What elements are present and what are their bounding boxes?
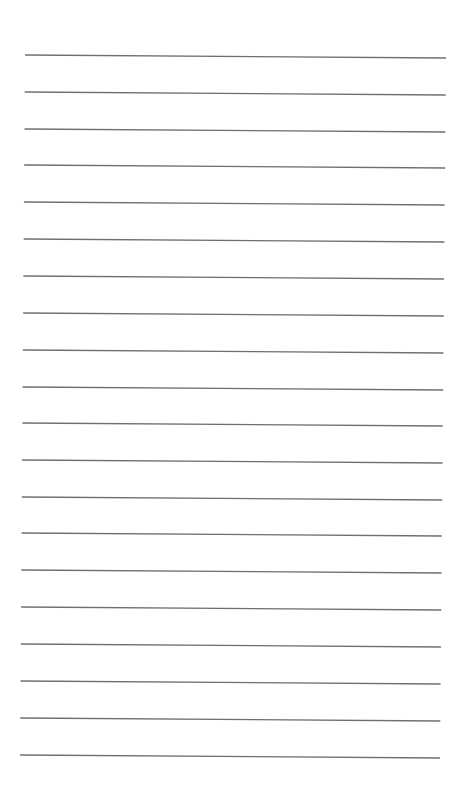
ruled-line-1 [25,55,446,58]
ruled-line-13 [22,497,442,500]
ruled-line-9 [23,350,444,353]
ruled-line-3 [25,129,446,132]
ruled-line-14 [22,533,442,536]
ruled-lines [0,0,457,800]
ruled-line-2 [25,92,446,95]
ruled-line-17 [21,644,441,647]
ruled-line-19 [20,718,440,721]
ruled-line-20 [20,755,440,758]
lined-paper-page [0,0,457,800]
ruled-line-15 [21,570,441,573]
ruled-line-12 [22,460,442,463]
ruled-line-7 [23,276,444,279]
ruled-line-5 [24,202,445,205]
ruled-line-6 [24,239,445,242]
ruled-line-8 [23,313,444,316]
ruled-line-11 [22,423,442,426]
ruled-line-10 [23,387,444,390]
ruled-line-4 [24,165,445,168]
ruled-line-18 [21,681,441,684]
ruled-line-16 [21,607,441,610]
